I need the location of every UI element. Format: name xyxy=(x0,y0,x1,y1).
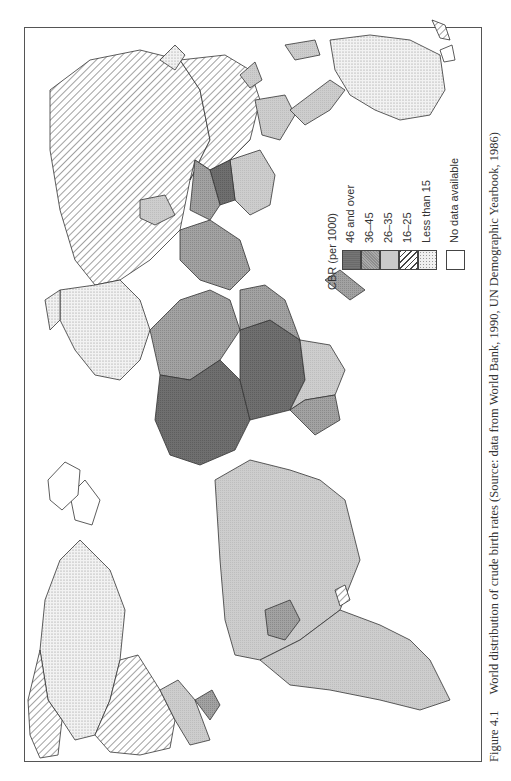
legend-label-16-25: 16–25 xyxy=(401,212,413,243)
legend-label-36-45: 36–45 xyxy=(363,212,375,243)
legend-label-26-35: 26–35 xyxy=(382,212,394,243)
legend-swatch-36-45 xyxy=(361,250,380,270)
region-india xyxy=(230,150,275,215)
legend-label-less-than-15: Less than 15 xyxy=(420,180,432,243)
region-new-guinea xyxy=(285,40,320,60)
region-indonesia xyxy=(290,80,345,125)
region-australia xyxy=(330,35,445,120)
legend-swatch-less-than-15 xyxy=(418,250,437,270)
figure-caption-text: World distribution of crude birth rates … xyxy=(487,132,501,695)
world-map xyxy=(0,0,511,781)
region-tasmania xyxy=(440,45,455,62)
figure-number: Figure 4.1 xyxy=(487,711,501,762)
legend-swatch-26-35 xyxy=(380,250,399,270)
legend-swatch-46-and-over xyxy=(342,250,361,270)
legend-label-no-data: No data available xyxy=(448,158,460,243)
region-new-zealand xyxy=(432,20,450,40)
legend-title: CBR (per 1000) xyxy=(326,213,338,290)
figure-caption: Figure 4.1World distribution of crude bi… xyxy=(487,132,502,762)
region-middle-east xyxy=(180,220,250,290)
region-scandinavia xyxy=(45,290,60,330)
legend-swatch-no-data xyxy=(446,250,465,270)
region-western-europe xyxy=(60,280,150,380)
legend-label-46-and-over: 46 and over xyxy=(344,185,356,243)
legend-swatch-16-25 xyxy=(399,250,418,270)
region-southeast-asia xyxy=(255,95,295,140)
